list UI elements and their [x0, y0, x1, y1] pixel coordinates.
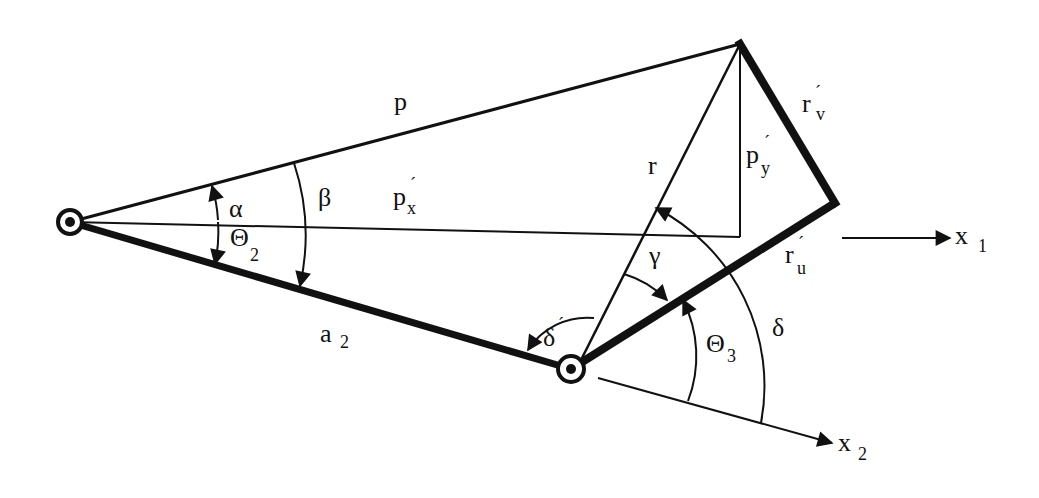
axis-x2 — [598, 378, 832, 443]
svg-text:v: v — [816, 104, 825, 124]
svg-text:´: ´ — [798, 233, 804, 253]
label-py: p ´ y — [746, 132, 770, 178]
svg-text:p: p — [393, 182, 406, 211]
link-ru — [571, 203, 835, 369]
label-rv: r ´ v — [802, 82, 825, 124]
label-delta: δ — [772, 313, 784, 342]
svg-text:Θ: Θ — [706, 329, 725, 358]
angle-beta-arc — [294, 163, 306, 286]
angle-theta3-arc — [683, 300, 696, 401]
label-ru: r ´ u — [785, 233, 806, 278]
svg-text:y: y — [761, 158, 770, 178]
label-p: p — [394, 87, 407, 116]
svg-text:r: r — [785, 240, 794, 269]
svg-text:u: u — [797, 258, 806, 278]
label-a2: a 2 — [320, 319, 349, 352]
label-x2: x 2 — [838, 428, 867, 464]
label-x1: x 1 — [955, 221, 987, 256]
label-gamma: γ — [648, 241, 661, 270]
svg-text:2: 2 — [250, 245, 259, 265]
angle-alpha-arc — [212, 186, 218, 220]
svg-text:´: ´ — [410, 174, 416, 194]
svg-text:x: x — [838, 428, 851, 457]
svg-text:3: 3 — [727, 346, 736, 366]
label-theta2: Θ 2 — [230, 223, 259, 265]
vector-px — [70, 222, 740, 237]
label-beta: β — [318, 183, 331, 212]
label-theta3: Θ 3 — [706, 329, 736, 366]
label-r: r — [648, 151, 657, 180]
svg-text:r: r — [802, 89, 811, 118]
svg-text:p: p — [746, 140, 759, 169]
svg-text:x: x — [407, 198, 416, 218]
angle-gamma-arc — [624, 274, 667, 300]
svg-text:x: x — [955, 221, 968, 250]
svg-text:1: 1 — [978, 236, 987, 256]
label-alpha: α — [229, 194, 243, 223]
label-delta-prime: δ ´ — [543, 314, 564, 352]
label-px: p ´ x — [393, 174, 416, 218]
angle-delta-arc — [656, 208, 764, 423]
angle-theta2-arc — [215, 222, 218, 264]
base-joint-icon — [58, 210, 82, 234]
svg-text:´: ´ — [558, 314, 564, 334]
svg-text:2: 2 — [340, 332, 349, 352]
elbow-joint-icon — [558, 356, 584, 382]
svg-text:2: 2 — [858, 444, 867, 464]
svg-text:Θ: Θ — [230, 223, 249, 252]
svg-text:´: ´ — [764, 132, 770, 152]
svg-text:a: a — [320, 319, 332, 348]
svg-text:´: ´ — [815, 82, 821, 102]
svg-text:δ: δ — [543, 323, 555, 352]
mechanism-diagram: p p ´ x p ´ y r r ´ v r ´ u α β γ δ δ ´ … — [0, 0, 1039, 498]
